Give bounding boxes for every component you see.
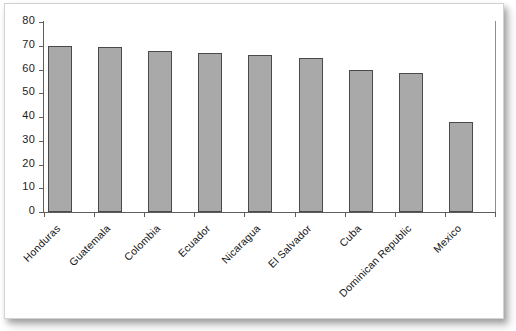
x-axis-label: El Salvador bbox=[265, 222, 313, 270]
x-axis-tick-mark bbox=[44, 212, 45, 217]
y-axis-tick-label: 30 bbox=[22, 133, 35, 145]
bar bbox=[148, 51, 172, 213]
y-axis-tick-label: 40 bbox=[22, 109, 35, 121]
x-axis-tick-mark bbox=[495, 212, 496, 217]
bar bbox=[48, 46, 72, 212]
x-axis-label: Guatemala bbox=[67, 222, 113, 268]
x-axis-tick-mark bbox=[244, 212, 245, 217]
x-axis-tick-mark bbox=[445, 212, 446, 217]
bar-chart: 01020304050607080 HondurasGuatemalaColom… bbox=[0, 0, 516, 331]
x-axis-label: Mexico bbox=[431, 222, 464, 255]
x-axis-label: Cuba bbox=[336, 222, 363, 249]
x-axis-label: Nicaragua bbox=[219, 222, 263, 266]
x-axis-tick-mark bbox=[345, 212, 346, 217]
bar bbox=[299, 58, 323, 212]
bar bbox=[399, 73, 423, 212]
bar bbox=[449, 122, 473, 212]
x-axis-tick-mark bbox=[295, 212, 296, 217]
y-axis-tick-label: 60 bbox=[22, 62, 35, 74]
bar bbox=[349, 70, 373, 213]
y-axis-tick-label: 10 bbox=[22, 180, 35, 192]
y-axis-tick-label: 80 bbox=[22, 14, 35, 26]
y-axis-tick-label: 70 bbox=[22, 38, 35, 50]
x-axis-label: Ecuador bbox=[176, 222, 213, 259]
bar bbox=[248, 55, 272, 212]
plot-right-border bbox=[495, 21, 496, 213]
x-axis-label: Honduras bbox=[21, 222, 63, 264]
x-axis-tick-mark bbox=[94, 212, 95, 217]
plot-area bbox=[44, 22, 495, 212]
x-axis-tick-mark bbox=[194, 212, 195, 217]
x-axis-tick-mark bbox=[144, 212, 145, 217]
x-axis-line bbox=[43, 212, 496, 213]
x-axis-label: Colombia bbox=[122, 222, 163, 263]
y-axis-tick-label: 20 bbox=[22, 157, 35, 169]
y-axis-tick-label: 0 bbox=[29, 204, 35, 216]
bar bbox=[98, 47, 122, 212]
x-axis-tick-mark bbox=[395, 212, 396, 217]
bar bbox=[198, 53, 222, 212]
y-axis-tick-label: 50 bbox=[22, 85, 35, 97]
